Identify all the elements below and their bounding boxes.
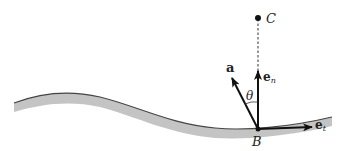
acceleration-vector-arrow: [232, 78, 258, 129]
label-c: C: [266, 11, 276, 26]
kinematics-diagram: C en a θ et B: [0, 0, 340, 151]
center-point-c: [255, 15, 261, 21]
label-a: a: [226, 60, 235, 75]
path-band: [14, 93, 332, 138]
curved-path: [14, 93, 332, 138]
label-en: en: [263, 70, 276, 85]
label-theta: θ: [246, 89, 254, 103]
point-b: [256, 127, 261, 132]
label-b: B: [251, 134, 262, 149]
